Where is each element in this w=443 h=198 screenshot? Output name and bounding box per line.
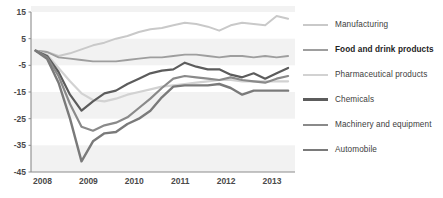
data-series-group (36, 16, 289, 161)
x-tick-label: 2010 (125, 176, 144, 186)
y-tick-label: 15 (17, 7, 27, 17)
x-tick-label: 2011 (171, 176, 190, 186)
y-tick-label: -45 (14, 167, 27, 177)
legend-swatch-line-icon (303, 24, 328, 26)
y-axis-tick-labels: 155-5-15-25-35-45 (14, 7, 31, 177)
y-tick-label: -35 (14, 140, 27, 150)
y-tick-label: 5 (21, 34, 26, 44)
background-bands (31, 6, 295, 172)
legend-swatch-line-icon (303, 149, 328, 151)
legend-swatch-line-icon (303, 124, 328, 126)
legend-item-label: Food and drink products (335, 45, 434, 54)
chart-svg: 155-5-15-25-35-45 2008200920102011201220… (0, 0, 300, 198)
legend-item-label: Pharmaceutical products (335, 70, 427, 79)
x-tick-label: 2008 (33, 176, 52, 186)
chart-screenshot: 155-5-15-25-35-45 2008200920102011201220… (0, 0, 443, 198)
legend-item[interactable]: Manufacturing (300, 12, 443, 37)
x-axis-tick-labels: 200820092010201120122013 (33, 176, 282, 186)
background-band (31, 39, 295, 66)
line-chart: 155-5-15-25-35-45 2008200920102011201220… (0, 0, 300, 198)
legend-item[interactable]: Automobile (300, 137, 443, 162)
y-tick-label: -5 (18, 60, 26, 70)
y-tick-label: -15 (14, 87, 27, 97)
legend-item[interactable]: Chemicals (300, 87, 443, 112)
legend-item[interactable]: Machinery and equipment (300, 112, 443, 137)
legend-item[interactable]: Pharmaceutical products (300, 62, 443, 87)
legend-item-label: Machinery and equipment (335, 120, 432, 129)
x-tick-label: 2012 (217, 176, 236, 186)
legend-swatch-line-icon (303, 74, 328, 76)
chart-legend: ManufacturingFood and drink productsPhar… (300, 0, 443, 198)
background-band (31, 145, 295, 172)
legend-swatch-line-icon (303, 98, 328, 101)
legend-item-label: Automobile (335, 145, 377, 154)
x-tick-label: 2009 (79, 176, 98, 186)
legend-swatch-line-icon (303, 49, 328, 51)
x-tick-label: 2013 (263, 176, 282, 186)
legend-item-label: Chemicals (335, 95, 374, 104)
legend-item[interactable]: Food and drink products (300, 37, 443, 62)
background-band (31, 6, 295, 12)
y-tick-label: -25 (14, 114, 27, 124)
legend-item-label: Manufacturing (335, 20, 388, 29)
